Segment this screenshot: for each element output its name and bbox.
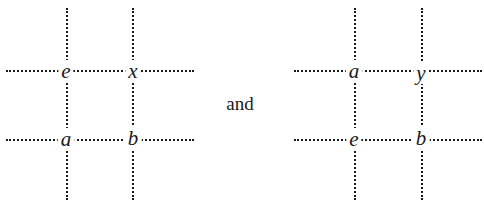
- left-grid-label-bottom-left: a: [58, 128, 75, 150]
- conjunction-text: and: [226, 93, 253, 115]
- right-grid-label-bottom-left: e: [346, 128, 361, 150]
- diagram-canvas: e x a b and a y e b: [0, 0, 484, 203]
- right-grid-vertical-line-2: [421, 8, 423, 200]
- right-grid-label-top-right: y: [413, 62, 428, 84]
- right-grid-label-bottom-right: b: [413, 127, 430, 149]
- right-grid-vertical-line-1: [354, 8, 356, 200]
- right-grid-label-top-left: a: [346, 60, 363, 82]
- right-grid-horizontal-line-1: [294, 70, 482, 72]
- left-grid-label-bottom-right: b: [125, 127, 142, 149]
- left-grid-horizontal-line-1: [6, 70, 194, 72]
- left-grid-horizontal-line-2: [6, 139, 194, 141]
- left-grid-vertical-line-2: [132, 8, 134, 200]
- left-grid-label-top-left: e: [58, 60, 73, 82]
- right-grid-horizontal-line-2: [294, 139, 482, 141]
- left-grid-label-top-right: x: [125, 60, 140, 82]
- left-grid-vertical-line-1: [66, 8, 68, 200]
